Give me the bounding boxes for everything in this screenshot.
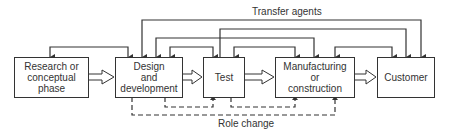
- node-customer: Customer: [377, 57, 435, 98]
- node-customer-label: Customer: [384, 72, 427, 83]
- role-change-lines: [132, 97, 335, 115]
- node-design: Design and development: [115, 57, 183, 98]
- node-manufacturing: Manufacturing or construction: [275, 57, 355, 98]
- node-research-label-1: Research or: [24, 61, 78, 72]
- node-manufacturing-label-1: Manufacturing: [283, 61, 346, 72]
- node-test-label: Test: [215, 72, 233, 83]
- transfer-agent-lines: [142, 20, 421, 57]
- node-test: Test: [203, 57, 245, 98]
- node-research-label-2: conceptual: [24, 72, 78, 83]
- transfer-agents-label: Transfer agents: [252, 6, 322, 17]
- node-design-label-3: development: [120, 83, 177, 94]
- node-research-label-3: phase: [24, 83, 78, 94]
- node-manufacturing-label-3: construction: [283, 83, 346, 94]
- role-change-label: Role change: [218, 118, 274, 129]
- node-research: Research or conceptual phase: [14, 57, 89, 98]
- node-design-label-2: and: [120, 72, 177, 83]
- feedback-lines: [50, 47, 392, 57]
- node-manufacturing-label-2: or: [283, 72, 346, 83]
- transfer-test-customer: [220, 29, 406, 57]
- node-design-label-1: Design: [120, 61, 177, 72]
